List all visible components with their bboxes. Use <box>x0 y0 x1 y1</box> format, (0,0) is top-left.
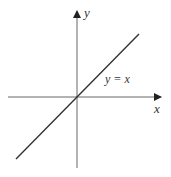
coordinate-plane: y x y = x <box>0 0 171 177</box>
y-axis-label: y <box>82 5 90 20</box>
line-label: y = x <box>104 72 130 86</box>
x-axis-label: x <box>153 101 160 116</box>
